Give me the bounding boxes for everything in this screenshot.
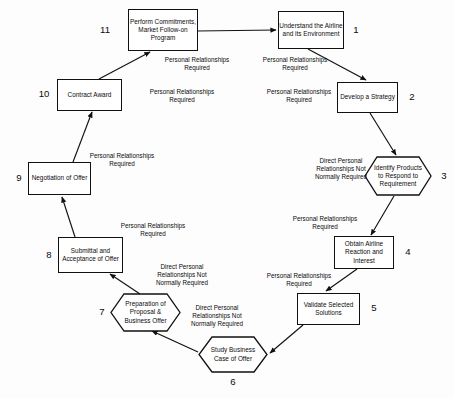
edge-label-8-to-9: Personal Relationships Required	[66, 152, 178, 168]
node-6-number: 6	[225, 377, 241, 387]
node-4-label: Obtain Airline Reaction and Interest	[335, 240, 393, 264]
arrow-11-to-1	[197, 30, 276, 31]
node-11-label: Perform Commitments, Market Follow-on Pr…	[129, 18, 197, 42]
node-1-number: 1	[348, 25, 364, 35]
edge-label-3-to-4: Personal Relationships Required	[269, 215, 381, 231]
node-5-number: 5	[366, 303, 382, 313]
process-cycle-diagram: Perform Commitments, Market Follow-on Pr…	[0, 0, 454, 398]
node-10-label: Contract Award	[68, 91, 112, 99]
node-11-perform-commitments[interactable]: Perform Commitments, Market Follow-on Pr…	[128, 9, 198, 51]
node-8-submittal-acceptance[interactable]: Submittal and Acceptance of Offer	[58, 237, 123, 273]
node-2-number: 2	[404, 92, 420, 102]
node-10-contract-award[interactable]: Contract Award	[57, 79, 122, 111]
node-4-number: 4	[400, 247, 416, 257]
node-3-label: Identify Products to Respond to Requirem…	[364, 164, 432, 188]
edge-label-9-to-10: Personal Relationships Required	[126, 88, 238, 104]
arrow-2-to-3	[370, 113, 396, 155]
node-3-number: 3	[436, 171, 452, 181]
node-9-label: Negotiation of Offer	[32, 174, 88, 182]
arrow-8-to-9	[62, 197, 75, 237]
node-9-number: 9	[11, 173, 27, 183]
node-7-number: 7	[94, 307, 110, 317]
node-1-understand-airline[interactable]: Understand the Airline and its Environme…	[278, 11, 344, 49]
arrow-5-to-6	[270, 325, 303, 353]
node-1-label: Understand the Airline and its Environme…	[279, 22, 343, 38]
node-5-label: Validate Selected Solutions	[298, 301, 359, 317]
node-10-number: 10	[34, 89, 54, 99]
node-11-number: 11	[95, 25, 115, 35]
edge-label-1-to-2-secondary: Personal Relationships Required	[243, 88, 355, 104]
edge-label-7-to-8: Personal Relationships Required	[97, 222, 209, 238]
node-7-label: Preparation of Proposal & Business Offer	[110, 300, 181, 324]
node-6-study-business-case[interactable]: Study Business Case of Offer	[198, 336, 268, 373]
edge-label-5-to-6: Direct Personal Relationships Not Normal…	[170, 304, 264, 328]
node-6-label: Study Business Case of Offer	[198, 346, 268, 362]
arrow-6-to-7	[152, 331, 198, 352]
node-8-label: Submittal and Acceptance of Offer	[59, 247, 122, 263]
node-4-obtain-airline-reaction[interactable]: Obtain Airline Reaction and Interest	[334, 236, 394, 269]
edge-label-1-to-2: Personal Relationships Required	[239, 56, 351, 72]
node-8-number: 8	[41, 250, 57, 260]
edge-label-6-to-7: Direct Personal Relationships Not Normal…	[136, 263, 228, 287]
node-5-validate-solutions[interactable]: Validate Selected Solutions	[297, 293, 360, 325]
edge-label-4-to-5: Personal Relationships Required	[243, 272, 355, 288]
